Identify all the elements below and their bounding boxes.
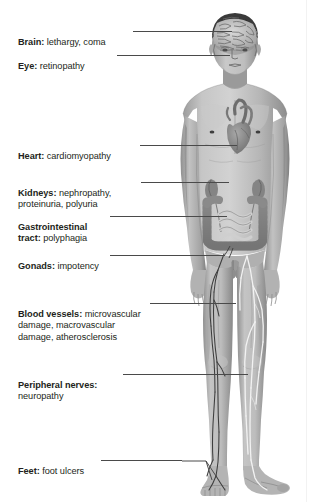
label-gonads-term: Gonads: bbox=[18, 261, 55, 271]
leader-line-kidneys bbox=[141, 182, 229, 183]
label-heart-term: Heart: bbox=[18, 151, 44, 161]
label-feet-term: Feet: bbox=[18, 466, 40, 476]
label-gonads-desc: impotency bbox=[55, 261, 99, 271]
label-brain: Brain: lethargy, coma bbox=[18, 25, 106, 48]
label-gonads: Gonads: impotency bbox=[18, 249, 99, 272]
label-heart: Heart: cardiomyopathy bbox=[18, 139, 111, 162]
label-brain-term: Brain: bbox=[18, 37, 44, 47]
leader-line-eye bbox=[117, 55, 230, 56]
label-kidneys: Kidneys: nephropathy, proteinuria, polyu… bbox=[18, 176, 111, 211]
label-eye-desc: retinopathy bbox=[37, 61, 84, 71]
label-gastrointestinal: Gastrointestinal tract: polyphagia bbox=[18, 210, 87, 245]
leader-line-gastrointestinal bbox=[110, 216, 227, 217]
leader-line-feet bbox=[101, 460, 182, 461]
label-gastrointestinal-desc: polyphagia bbox=[41, 233, 87, 243]
label-peripheral-nerves: Peripheral nerves: neuropathy bbox=[18, 368, 97, 403]
label-kidneys-term: Kidneys: bbox=[18, 188, 56, 198]
leader-line-feet-diagonal bbox=[178, 452, 228, 488]
label-heart-desc: cardiomyopathy bbox=[44, 151, 111, 161]
label-blood-vessels-term: Blood vessels: bbox=[18, 309, 82, 319]
head-group bbox=[209, 13, 261, 93]
leader-line-gonads bbox=[110, 255, 225, 256]
human-body-figure bbox=[175, 4, 315, 498]
label-eye: Eye: retinopathy bbox=[18, 49, 85, 72]
brain-organ bbox=[213, 17, 256, 55]
label-peripheral-nerves-desc: neuropathy bbox=[18, 391, 63, 401]
label-eye-term: Eye: bbox=[18, 61, 37, 71]
label-blood-vessels: Blood vessels: microvascular damage, mac… bbox=[18, 297, 141, 343]
diabetes-complications-diagram: Brain: lethargy, coma Eye: retinopathy H… bbox=[0, 0, 317, 502]
leader-line-blood-vessels bbox=[150, 303, 236, 304]
label-feet: Feet: foot ulcers bbox=[18, 454, 84, 477]
leader-line-heart bbox=[140, 145, 237, 146]
label-feet-desc: foot ulcers bbox=[40, 466, 84, 476]
label-brain-desc: lethargy, coma bbox=[44, 37, 105, 47]
label-peripheral-nerves-term: Peripheral nerves: bbox=[18, 380, 97, 390]
leader-line-peripheral-nerves bbox=[123, 374, 248, 375]
leader-line-brain bbox=[133, 31, 232, 32]
